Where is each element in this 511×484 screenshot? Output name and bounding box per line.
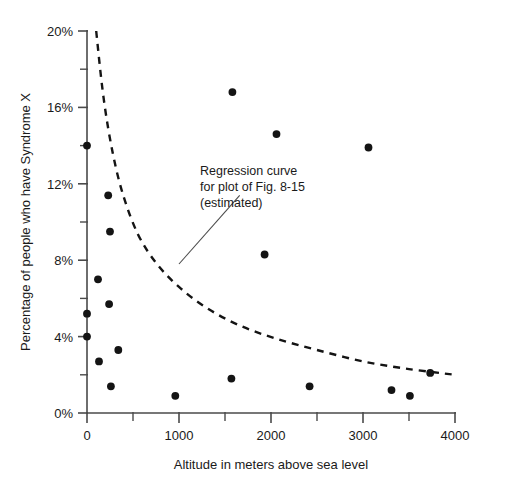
x-tick-label: 0 xyxy=(83,428,90,443)
x-axis-group: 01000200030004000 Altitude in meters abo… xyxy=(83,412,469,472)
regression-curve xyxy=(96,31,455,375)
y-tick-label: 16% xyxy=(47,100,73,115)
x-axis-title: Altitude in meters above sea level xyxy=(174,457,368,472)
data-point xyxy=(261,251,269,259)
annotation-line: Regression curve xyxy=(200,164,297,178)
y-axis-title: Percentage of people who have Syndrome X xyxy=(18,93,33,351)
data-point xyxy=(306,382,314,390)
y-tick-label: 8% xyxy=(54,253,73,268)
data-point xyxy=(365,144,373,152)
x-axis-tick-labels: 01000200030004000 xyxy=(83,428,469,443)
data-point xyxy=(171,392,179,400)
data-point xyxy=(94,275,102,283)
y-axis-tick-labels: 0%4%8%12%16%20% xyxy=(47,24,73,421)
data-point xyxy=(106,228,114,236)
data-point xyxy=(388,386,396,394)
x-tick-label: 4000 xyxy=(441,428,470,443)
chart-canvas: 0%4%8%12%16%20% Percentage of people who… xyxy=(0,0,511,484)
data-point xyxy=(83,333,91,341)
data-point xyxy=(406,392,414,400)
data-point xyxy=(229,88,237,96)
annotation-line: for plot of Fig. 8-15 xyxy=(200,180,305,194)
data-point-series xyxy=(83,88,434,400)
x-tick-label: 1000 xyxy=(165,428,194,443)
annotation-label: Regression curvefor plot of Fig. 8-15(es… xyxy=(200,164,305,210)
y-tick-label: 20% xyxy=(47,24,73,39)
data-point xyxy=(228,375,236,383)
data-point xyxy=(273,130,281,138)
data-point xyxy=(107,382,115,390)
y-tick-label: 0% xyxy=(54,406,73,421)
y-axis-group: 0%4%8%12%16%20% Percentage of people who… xyxy=(18,24,88,421)
data-point xyxy=(95,358,103,366)
x-tick-label: 3000 xyxy=(349,428,378,443)
data-point xyxy=(83,142,91,150)
data-point xyxy=(105,300,113,308)
y-tick-label: 4% xyxy=(54,330,73,345)
x-tick-label: 2000 xyxy=(257,428,286,443)
data-point xyxy=(104,191,112,199)
scatter-plot-figure: 0%4%8%12%16%20% Percentage of people who… xyxy=(0,0,511,484)
data-point xyxy=(83,310,91,318)
annotation-line: (estimated) xyxy=(200,196,263,210)
data-point xyxy=(426,369,434,377)
data-point xyxy=(114,346,122,354)
y-tick-label: 12% xyxy=(47,177,73,192)
